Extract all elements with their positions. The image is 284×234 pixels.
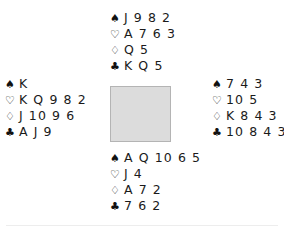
- heart-icon: ♡: [110, 167, 124, 183]
- hand-south-clubs-cards: 7 6 2: [124, 198, 161, 214]
- hand-north-spades-row: ♠ J 9 8 2: [110, 10, 176, 26]
- hand-south-spades-cards: A Q 10 6 5: [124, 150, 201, 166]
- table-center-square: [110, 86, 171, 142]
- hand-east-spades-row: ♠ 7 4 3: [212, 76, 284, 92]
- hand-west-clubs-cards: A J 9: [19, 124, 53, 140]
- hand-west-diamonds-row: ♢ J 10 9 6: [5, 108, 87, 124]
- hand-west-hearts-row: ♡ K Q 9 8 2: [5, 92, 87, 108]
- spade-icon: ♠: [110, 11, 124, 27]
- hand-west-spades-cards: K: [19, 76, 28, 92]
- hand-north-spades-cards: J 9 8 2: [124, 10, 171, 26]
- hand-north-clubs-cards: K Q 5: [124, 58, 163, 74]
- hand-east-clubs-row: ♣ 10 8 4 3: [212, 124, 284, 140]
- hand-east-hearts-row: ♡ 10 5: [212, 92, 284, 108]
- hand-north-diamonds-cards: Q 5: [124, 42, 149, 58]
- hand-south-hearts-cards: J 4: [124, 166, 143, 182]
- club-icon: ♣: [110, 199, 124, 215]
- hand-north-hearts-cards: A 7 6 3: [124, 26, 176, 42]
- hand-east-hearts-cards: 10 5: [226, 92, 258, 108]
- hand-north-hearts-row: ♡ A 7 6 3: [110, 26, 176, 42]
- hand-west-hearts-cards: K Q 9 8 2: [19, 92, 87, 108]
- hand-east-spades-cards: 7 4 3: [226, 76, 263, 92]
- diamond-icon: ♢: [110, 43, 124, 59]
- diamond-icon: ♢: [5, 109, 19, 125]
- heart-icon: ♡: [110, 27, 124, 43]
- club-icon: ♣: [110, 59, 124, 75]
- diamond-icon: ♢: [212, 109, 226, 125]
- hand-south-hearts-row: ♡ J 4: [110, 166, 201, 182]
- hand-west-spades-row: ♠ K: [5, 76, 87, 92]
- club-icon: ♣: [5, 125, 19, 141]
- hand-west: ♠ K ♡ K Q 9 8 2 ♢ J 10 9 6 ♣ A J 9: [5, 76, 87, 140]
- footer-divider: [6, 225, 278, 226]
- heart-icon: ♡: [5, 93, 19, 109]
- diamond-icon: ♢: [110, 183, 124, 199]
- hand-south-clubs-row: ♣ 7 6 2: [110, 198, 201, 214]
- hand-east-diamonds-cards: K 8 4 3: [226, 108, 278, 124]
- spade-icon: ♠: [5, 77, 19, 93]
- club-icon: ♣: [212, 125, 226, 141]
- hand-north-clubs-row: ♣ K Q 5: [110, 58, 176, 74]
- hand-south: ♠ A Q 10 6 5 ♡ J 4 ♢ A 7 2 ♣ 7 6 2: [110, 150, 201, 214]
- hand-east-diamonds-row: ♢ K 8 4 3: [212, 108, 284, 124]
- hand-south-diamonds-row: ♢ A 7 2: [110, 182, 201, 198]
- hand-east-clubs-cards: 10 8 4 3: [226, 124, 284, 140]
- bridge-deal-diagram: ♠ J 9 8 2 ♡ A 7 6 3 ♢ Q 5 ♣ K Q 5 ♠ K ♡ …: [0, 0, 284, 234]
- spade-icon: ♠: [110, 151, 124, 167]
- hand-south-diamonds-cards: A 7 2: [124, 182, 162, 198]
- hand-west-clubs-row: ♣ A J 9: [5, 124, 87, 140]
- spade-icon: ♠: [212, 77, 226, 93]
- hand-north-diamonds-row: ♢ Q 5: [110, 42, 176, 58]
- hand-north: ♠ J 9 8 2 ♡ A 7 6 3 ♢ Q 5 ♣ K Q 5: [110, 10, 176, 74]
- hand-east: ♠ 7 4 3 ♡ 10 5 ♢ K 8 4 3 ♣ 10 8 4 3: [212, 76, 284, 140]
- hand-south-spades-row: ♠ A Q 10 6 5: [110, 150, 201, 166]
- heart-icon: ♡: [212, 93, 226, 109]
- hand-west-diamonds-cards: J 10 9 6: [19, 108, 75, 124]
